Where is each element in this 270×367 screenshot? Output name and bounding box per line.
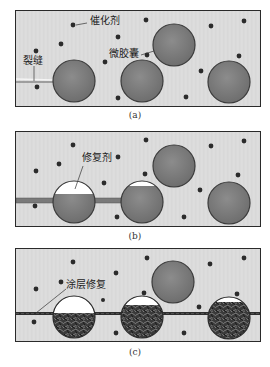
label-catalyst: 催化剂 bbox=[90, 16, 120, 26]
panel-b-crack-release: 修复剂 bbox=[15, 131, 261, 227]
ruptured-microcapsule bbox=[119, 180, 165, 223]
microcapsule bbox=[53, 60, 95, 102]
label-microcapsule: 微胶囊 bbox=[109, 49, 139, 59]
caption-b: (b) bbox=[0, 231, 270, 241]
microcapsule bbox=[208, 182, 250, 224]
panel-c-coating-repaired: 涂层修复 bbox=[15, 248, 261, 342]
label-healing-agent: 修复剂 bbox=[82, 153, 112, 163]
ruptured-microcapsule bbox=[51, 180, 97, 223]
panel-b-graphic bbox=[16, 132, 261, 227]
microcapsule bbox=[121, 60, 163, 102]
microcapsule bbox=[208, 61, 250, 103]
caption-c: (c) bbox=[0, 347, 270, 357]
microcapsule bbox=[153, 145, 195, 187]
caption-a: (a) bbox=[0, 110, 270, 120]
polymerized-microcapsule bbox=[51, 295, 97, 338]
polymerized-microcapsule bbox=[119, 295, 165, 338]
microcapsule bbox=[153, 24, 195, 66]
polymerized-microcapsule bbox=[206, 296, 252, 339]
catalyst-leader-line bbox=[76, 23, 87, 25]
microcapsule bbox=[152, 261, 194, 303]
panel-a-graphic bbox=[16, 11, 261, 107]
panel-c-graphic bbox=[16, 249, 261, 342]
panel-a-intact-coating: 催化剂 微胶囊 裂缝 bbox=[15, 10, 261, 107]
crack-line bbox=[16, 79, 54, 82]
label-coating-repair: 涂层修复 bbox=[66, 280, 106, 290]
label-crack: 裂缝 bbox=[23, 56, 43, 66]
